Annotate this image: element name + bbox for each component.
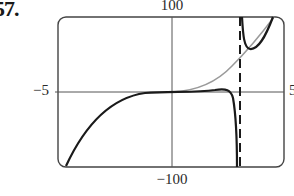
plot-area	[0, 0, 294, 196]
comparison-curve	[172, 17, 274, 92]
function-curve-right-branch	[242, 17, 273, 49]
function-curve-left-branch	[66, 89, 237, 167]
